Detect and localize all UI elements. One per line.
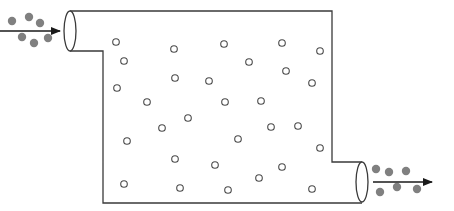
hollow-particle [172, 156, 179, 163]
filled-particle [372, 165, 380, 173]
hollow-particle [309, 186, 316, 193]
outlet-pipe-opening [356, 162, 368, 202]
hollow-particle [279, 40, 286, 47]
hollow-particle [317, 48, 324, 55]
hollow-particle [172, 75, 179, 82]
chamber-particles [113, 39, 324, 194]
filled-particle [402, 167, 410, 175]
filled-particle [44, 34, 52, 42]
hollow-particle [268, 124, 275, 131]
hollow-particle [124, 138, 131, 145]
hollow-particle [222, 99, 229, 106]
hollow-particle [206, 78, 213, 85]
hollow-particle [221, 41, 228, 48]
inlet-pipe-opening [64, 11, 76, 51]
inlet-particles [8, 13, 52, 47]
hollow-particle [279, 164, 286, 171]
hollow-particle [225, 187, 232, 194]
filled-particle [413, 185, 421, 193]
pipe-flow-diagram [0, 0, 454, 211]
filled-particle [393, 183, 401, 191]
hollow-particle [212, 162, 219, 169]
outlet-particles [372, 165, 421, 196]
hollow-particle [283, 68, 290, 75]
filled-particle [25, 13, 33, 21]
hollow-particle [256, 175, 263, 182]
filled-particle [30, 39, 38, 47]
hollow-particle [144, 99, 151, 106]
hollow-particle [185, 115, 192, 122]
filled-particle [36, 19, 44, 27]
filled-particle [376, 188, 384, 196]
filled-particle [18, 33, 26, 41]
hollow-particle [114, 85, 121, 92]
hollow-particle [113, 39, 120, 46]
filled-particle [8, 17, 16, 25]
hollow-particle [235, 136, 242, 143]
hollow-particle [171, 46, 178, 53]
hollow-particle [121, 58, 128, 65]
hollow-particle [121, 181, 128, 188]
hollow-particle [246, 59, 253, 66]
hollow-particle [295, 123, 302, 130]
hollow-particle [309, 80, 316, 87]
hollow-particle [317, 145, 324, 152]
hollow-particle [258, 98, 265, 105]
hollow-particle [177, 185, 184, 192]
filled-particle [385, 168, 393, 176]
hollow-particle [159, 125, 166, 132]
